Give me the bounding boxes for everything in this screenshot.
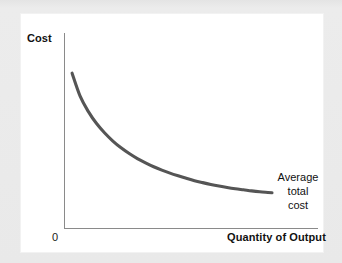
- origin-label: 0: [52, 230, 58, 244]
- curve-annotation-line-2: total: [274, 184, 322, 198]
- figure-root: Cost Quantity of Output 0 Average total …: [0, 0, 342, 263]
- plot-area: Cost Quantity of Output 0 Average total …: [0, 0, 342, 263]
- x-axis-label: Quantity of Output: [227, 230, 326, 244]
- curve-annotation: Average total cost: [274, 170, 322, 212]
- curve-annotation-line-3: cost: [274, 198, 322, 212]
- curve-annotation-line-1: Average: [274, 170, 322, 184]
- y-axis-label: Cost: [27, 31, 52, 45]
- average-total-cost-curve: [72, 73, 272, 193]
